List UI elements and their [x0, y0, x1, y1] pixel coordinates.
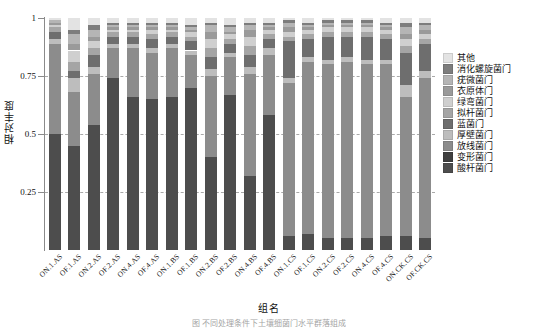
legend-swatch-icon — [443, 141, 453, 151]
legend-item[interactable]: 酸杆菌门 — [443, 163, 537, 174]
bar-segment — [107, 27, 119, 29]
bar-segment — [302, 18, 314, 23]
bar-segment — [166, 32, 178, 37]
bar-segment — [419, 34, 431, 39]
bar-segment — [283, 20, 295, 22]
legend-item[interactable]: 疣微菌门 — [443, 74, 537, 85]
legend-item[interactable]: 放线菌门 — [443, 141, 537, 152]
bar-segment — [283, 27, 295, 32]
bar-column[interactable] — [146, 18, 158, 250]
bar-segment — [49, 18, 61, 20]
bar-column[interactable] — [166, 18, 178, 250]
bar-column[interactable] — [224, 18, 236, 250]
legend-item[interactable]: 消化螺旋菌门 — [443, 63, 537, 74]
legend-label: 厚壁菌门 — [457, 130, 493, 140]
bar-segment — [322, 37, 334, 60]
bar-segment — [68, 62, 80, 71]
bar-segment — [224, 32, 236, 34]
legend-label: 蓝菌门 — [457, 119, 484, 129]
bar-column[interactable] — [263, 18, 275, 250]
x-axis-title: 组名 — [0, 300, 537, 315]
bar-column[interactable] — [205, 18, 217, 250]
y-axis-tick — [38, 192, 44, 193]
bar-column[interactable] — [107, 18, 119, 250]
bar-segment — [224, 95, 236, 250]
bar-segment — [244, 46, 256, 55]
bar-column[interactable] — [49, 18, 61, 250]
bar-segment — [341, 37, 353, 58]
bar-segment — [302, 23, 314, 25]
bar-segment — [244, 176, 256, 250]
legend-item[interactable]: 衣原体门 — [443, 85, 537, 96]
bar-segment — [361, 238, 373, 250]
bar-column[interactable] — [341, 18, 353, 250]
legend-item[interactable]: 绿弯菌门 — [443, 96, 537, 107]
bar-segment — [361, 27, 373, 32]
bar-column[interactable] — [380, 18, 392, 250]
bar-segment — [49, 25, 61, 27]
figure-caption: 图 不同处理条件下土壤细菌门水平群落组成 — [0, 317, 537, 328]
bar-segment — [380, 34, 392, 39]
bar-segment — [127, 18, 139, 23]
y-axis-tick-label: 0.5 — [25, 129, 36, 139]
bar-segment — [419, 44, 431, 72]
bar-segment — [283, 236, 295, 250]
legend-item[interactable]: 其他 — [443, 52, 537, 63]
bar-segment — [127, 44, 139, 49]
legend-item[interactable]: 厚壁菌门 — [443, 130, 537, 141]
bar-segment — [68, 30, 80, 35]
bar-segment — [127, 48, 139, 97]
legend-label: 疣微菌门 — [457, 75, 493, 85]
bar-column[interactable] — [419, 18, 431, 250]
bar-column[interactable] — [68, 18, 80, 250]
bar-segment — [146, 48, 158, 53]
bar-segment — [88, 125, 100, 250]
bar-column[interactable] — [302, 18, 314, 250]
bar-segment — [263, 23, 275, 25]
bar-column[interactable] — [322, 18, 334, 250]
bar-segment — [127, 27, 139, 29]
legend-item[interactable]: 拟杆菌门 — [443, 107, 537, 118]
bar-segment — [185, 32, 197, 37]
bar-segment — [341, 32, 353, 37]
bar-segment — [166, 48, 178, 97]
bar-segment — [400, 39, 412, 46]
bar-column[interactable] — [283, 18, 295, 250]
legend-swatch-icon — [443, 152, 453, 162]
legend-swatch-icon — [443, 53, 453, 63]
bar-segment — [88, 48, 100, 55]
bar-segment — [224, 18, 236, 25]
y-axis-tick-label: 0.25 — [20, 187, 36, 197]
bar-segment — [107, 25, 119, 27]
bar-column[interactable] — [185, 18, 197, 250]
bar-segment — [88, 67, 100, 74]
x-axis-tick-label: ON.1.AS — [37, 252, 64, 279]
bar-segment — [205, 48, 217, 57]
bar-column[interactable] — [361, 18, 373, 250]
bar-segment — [263, 39, 275, 48]
bar-segment — [361, 60, 373, 65]
bar-column[interactable] — [127, 18, 139, 250]
bar-segment — [341, 238, 353, 250]
legend-label: 酸杆菌门 — [457, 163, 493, 173]
bar-segment — [244, 18, 256, 23]
bar-segment — [88, 55, 100, 67]
bar-segment — [263, 27, 275, 29]
bar-column[interactable] — [244, 18, 256, 250]
bar-segment — [283, 18, 295, 20]
bar-segment — [380, 60, 392, 65]
bar-segment — [361, 64, 373, 238]
legend-swatch-icon — [443, 75, 453, 85]
bar-segment — [361, 18, 373, 20]
bar-segment — [263, 55, 275, 115]
legend-label: 变形菌门 — [457, 152, 493, 162]
bar-segment — [263, 115, 275, 250]
legend-item[interactable]: 蓝菌门 — [443, 119, 537, 130]
bar-column[interactable] — [400, 18, 412, 250]
bar-segment — [146, 34, 158, 39]
legend-item[interactable]: 变形菌门 — [443, 152, 537, 163]
bar-segment — [380, 39, 392, 60]
bar-segment — [224, 44, 236, 53]
bar-column[interactable] — [88, 18, 100, 250]
bar-segment — [88, 41, 100, 48]
